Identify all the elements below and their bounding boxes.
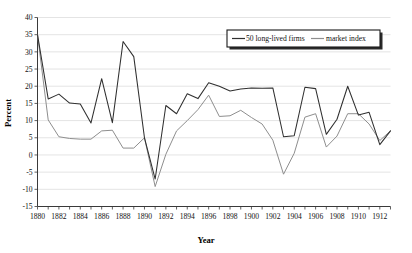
y-tick-label: 15 (25, 99, 33, 108)
x-axis-title: Year (197, 235, 214, 245)
x-tick-label: 1906 (308, 212, 323, 221)
x-tick-label: 1892 (158, 212, 173, 221)
legend-label-firms: 50 long-lived firms (246, 34, 305, 43)
x-tick-label: 1896 (201, 212, 216, 221)
x-tick-label: 1910 (351, 212, 366, 221)
x-axis-ticks: 1880188218841886188818901892189418961898… (30, 207, 391, 221)
series-line-market-index (38, 35, 391, 187)
x-tick-label: 1894 (180, 212, 195, 221)
x-tick-label: 1900 (244, 212, 259, 221)
y-tick-label: -5 (26, 168, 33, 177)
x-tick-label: 1888 (115, 212, 130, 221)
y-tick-label: 20 (25, 82, 33, 91)
figure-caption (0, 246, 412, 253)
data-series (38, 35, 391, 187)
x-tick-label: 1902 (265, 212, 280, 221)
x-tick-label: 1886 (94, 212, 109, 221)
x-tick-label: 1904 (287, 212, 302, 221)
x-tick-label: 1890 (137, 212, 152, 221)
y-axis-title: Percent (3, 99, 13, 127)
y-tick-label: -15 (22, 202, 32, 211)
y-tick-label: 40 (25, 13, 33, 22)
y-tick-label: 30 (25, 48, 33, 57)
y-tick-label: 0 (29, 151, 33, 160)
x-tick-label: 1912 (372, 212, 387, 221)
y-tick-label: 10 (25, 116, 33, 125)
y-tick-label: 25 (25, 65, 33, 74)
y-tick-label: 5 (29, 133, 33, 142)
legend-label-market-index: market index (326, 34, 366, 43)
chart-legend: 50 long-lived firmsmarket index (227, 30, 383, 50)
x-tick-label: 1880 (30, 212, 45, 221)
line-chart: 1880188218841886188818901892189418961898… (0, 0, 412, 253)
x-tick-label: 1908 (329, 212, 344, 221)
y-tick-label: -10 (22, 185, 32, 194)
x-tick-label: 1898 (222, 212, 237, 221)
x-tick-label: 1884 (73, 212, 88, 221)
y-axis-ticks: -15-10-50510152025303540 (22, 13, 37, 211)
chart-container: 1880188218841886188818901892189418961898… (0, 0, 412, 253)
x-tick-label: 1882 (51, 212, 66, 221)
y-tick-label: 35 (25, 30, 33, 39)
